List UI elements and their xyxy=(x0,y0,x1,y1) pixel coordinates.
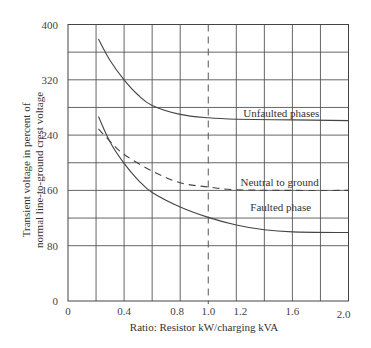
series-annotations: Unfaulted phasesNeutral to groundFaulted… xyxy=(241,107,320,213)
x-tick-label: 0 xyxy=(65,305,71,317)
y-tick-label: 400 xyxy=(42,19,59,31)
series-neutral-to-ground-label: Neutral to ground xyxy=(241,176,320,188)
x-tick-label: 1.2 xyxy=(233,305,247,317)
series-faulted-phase-label: Faulted phase xyxy=(250,201,311,213)
y-tick-label: 320 xyxy=(42,74,59,86)
y-axis-label-line-1: Transient voltage in percent of xyxy=(20,102,32,237)
x-tick-label: 1.0 xyxy=(201,305,215,317)
y-tick-label: 80 xyxy=(47,240,59,252)
x-axis-ticks: 00.40.81.01.21.62.0 xyxy=(65,305,351,320)
y-axis-label-line-2: normal line-to-ground crest voltage xyxy=(33,92,45,248)
chart: Unfaulted phasesNeutral to groundFaulted… xyxy=(0,0,371,348)
x-tick-label: 2.0 xyxy=(337,308,351,320)
x-tick-label: 0.8 xyxy=(170,305,184,317)
y-axis-label: Transient voltage in percent of normal l… xyxy=(20,92,45,248)
series-faulted-phase xyxy=(98,116,348,232)
x-axis-label: Ratio: Resistor kW/charging kVA xyxy=(130,321,278,333)
series-unfaulted-phases-label: Unfaulted phases xyxy=(243,107,319,119)
x-tick-label: 0.4 xyxy=(117,305,131,317)
x-tick-label: 1.6 xyxy=(286,305,300,317)
y-tick-label: 0 xyxy=(53,295,59,307)
